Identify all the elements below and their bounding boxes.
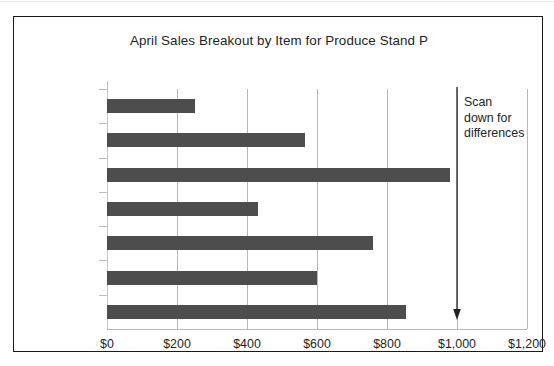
bar bbox=[107, 168, 450, 182]
bar bbox=[107, 133, 305, 147]
y-tick bbox=[99, 89, 107, 90]
bar bbox=[107, 305, 406, 319]
gridline bbox=[387, 89, 388, 329]
annotation-line-3: differences bbox=[464, 126, 546, 142]
y-tick bbox=[99, 158, 107, 159]
x-tick-label: $400 bbox=[233, 337, 261, 351]
y-tick bbox=[99, 226, 107, 227]
top-rule bbox=[0, 1, 554, 2]
x-tick-label: $600 bbox=[303, 337, 331, 351]
scan-down-arrow-icon bbox=[452, 87, 462, 321]
y-tick bbox=[99, 123, 107, 124]
chart-frame: April Sales Breakout by Item for Produce… bbox=[13, 16, 543, 352]
bar bbox=[107, 202, 258, 216]
x-axis-line bbox=[107, 329, 527, 330]
y-tick bbox=[99, 295, 107, 296]
chart-title: April Sales Breakout by Item for Produce… bbox=[14, 33, 544, 48]
y-tick bbox=[99, 260, 107, 261]
x-tick-label: $0 bbox=[100, 337, 114, 351]
scan-annotation: Scan down for differences bbox=[464, 95, 546, 142]
gridline bbox=[317, 89, 318, 329]
figure: April Sales Breakout by Item for Produce… bbox=[0, 0, 554, 366]
bar bbox=[107, 236, 373, 250]
x-tick-label: $200 bbox=[163, 337, 191, 351]
x-tick-label: $1,000 bbox=[438, 337, 476, 351]
bar bbox=[107, 271, 317, 285]
y-tick bbox=[99, 192, 107, 193]
annotation-line-1: Scan bbox=[464, 95, 546, 111]
x-tick-label: $800 bbox=[373, 337, 401, 351]
bar bbox=[107, 99, 195, 113]
annotation-line-2: down for bbox=[464, 111, 546, 127]
x-tick-label: $1,200 bbox=[508, 337, 546, 351]
